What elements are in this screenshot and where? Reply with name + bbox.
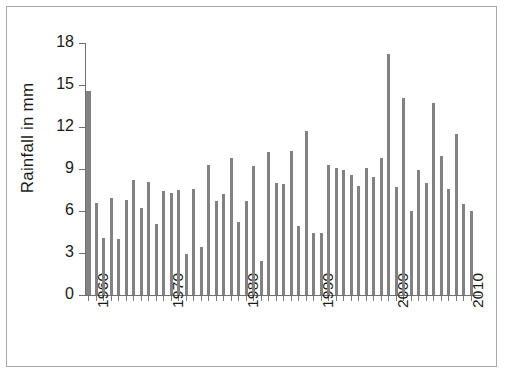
bar bbox=[342, 170, 345, 295]
bar bbox=[117, 239, 120, 295]
x-tick-mark bbox=[208, 296, 209, 301]
bar bbox=[237, 222, 240, 295]
bar bbox=[125, 200, 128, 295]
bar bbox=[447, 189, 450, 295]
x-tick-mark bbox=[298, 296, 299, 301]
bar bbox=[327, 165, 330, 295]
y-tick-label: 18 bbox=[40, 34, 74, 50]
x-tick-mark bbox=[418, 296, 419, 301]
x-tick-mark bbox=[156, 296, 157, 301]
bar bbox=[470, 211, 473, 295]
bar bbox=[417, 170, 420, 295]
x-tick-mark bbox=[291, 296, 292, 301]
x-tick-mark bbox=[88, 296, 89, 301]
bar bbox=[170, 193, 173, 295]
x-tick-mark bbox=[388, 296, 389, 301]
bar bbox=[192, 189, 195, 295]
y-tick-label: 9 bbox=[40, 160, 74, 176]
x-tick-mark bbox=[148, 296, 149, 301]
bar bbox=[252, 166, 255, 295]
x-tick-mark bbox=[306, 296, 307, 301]
bar bbox=[297, 226, 300, 295]
y-tick-mark bbox=[79, 295, 85, 296]
x-tick-mark bbox=[351, 296, 352, 301]
bar bbox=[260, 261, 263, 295]
bar bbox=[200, 247, 203, 295]
x-tick-mark bbox=[231, 296, 232, 301]
bar bbox=[230, 158, 233, 295]
bar bbox=[102, 238, 105, 295]
y-tick-mark bbox=[79, 85, 85, 86]
x-tick-mark bbox=[201, 296, 202, 301]
x-tick-mark bbox=[133, 296, 134, 301]
y-tick-mark bbox=[79, 211, 85, 212]
bar bbox=[282, 184, 285, 295]
y-tick-mark bbox=[79, 169, 85, 170]
x-tick-mark bbox=[193, 296, 194, 301]
y-axis-title: Rainfall in mm bbox=[18, 18, 38, 258]
bar bbox=[372, 177, 375, 295]
bar bbox=[222, 194, 225, 295]
y-tick-label: 12 bbox=[40, 118, 74, 134]
x-tick-mark bbox=[141, 296, 142, 301]
x-tick-mark bbox=[433, 296, 434, 301]
bar bbox=[245, 201, 248, 295]
x-tick-mark bbox=[283, 296, 284, 301]
bar bbox=[185, 254, 188, 295]
y-tick-label: 0 bbox=[40, 286, 74, 302]
x-tick-mark bbox=[366, 296, 367, 301]
y-tick-mark bbox=[79, 127, 85, 128]
x-tick-mark bbox=[441, 296, 442, 301]
x-tick-mark bbox=[343, 296, 344, 301]
bar bbox=[462, 204, 465, 295]
x-tick-mark bbox=[313, 296, 314, 301]
bar bbox=[455, 134, 458, 295]
bar bbox=[110, 198, 113, 295]
bar bbox=[425, 183, 428, 295]
x-tick-mark bbox=[426, 296, 427, 301]
bar bbox=[380, 158, 383, 295]
bar bbox=[147, 182, 150, 295]
x-tick-mark bbox=[238, 296, 239, 301]
y-tick-mark bbox=[79, 253, 85, 254]
bar bbox=[395, 187, 398, 295]
bar bbox=[335, 168, 338, 295]
bar bbox=[387, 54, 390, 295]
bar bbox=[162, 191, 165, 295]
bar bbox=[312, 233, 315, 295]
x-tick-mark bbox=[216, 296, 217, 301]
bar bbox=[275, 183, 278, 295]
bar bbox=[432, 103, 435, 295]
x-tick-mark bbox=[276, 296, 277, 301]
bar bbox=[155, 224, 158, 295]
bar bbox=[350, 175, 353, 295]
x-tick-mark bbox=[448, 296, 449, 301]
rainfall-bar-chart: Rainfall in mm 0369121518 19601970198019… bbox=[0, 0, 505, 375]
x-tick-mark bbox=[223, 296, 224, 301]
y-tick-label: 6 bbox=[40, 202, 74, 218]
x-tick-mark bbox=[163, 296, 164, 301]
x-tick-mark bbox=[463, 296, 464, 301]
x-tick-mark bbox=[456, 296, 457, 301]
bar bbox=[320, 233, 323, 295]
bar bbox=[440, 156, 443, 295]
x-tick-mark bbox=[381, 296, 382, 301]
x-tick-mark bbox=[268, 296, 269, 301]
bar bbox=[132, 180, 135, 295]
bar bbox=[207, 165, 210, 295]
bar bbox=[357, 186, 360, 295]
x-tick-mark bbox=[358, 296, 359, 301]
y-tick-label: 3 bbox=[40, 244, 74, 260]
y-tick-label: 15 bbox=[40, 76, 74, 92]
bar bbox=[410, 211, 413, 295]
bar bbox=[305, 131, 308, 295]
y-tick-mark bbox=[79, 43, 85, 44]
bar bbox=[86, 91, 91, 295]
bar bbox=[177, 190, 180, 295]
bar bbox=[402, 98, 405, 295]
bar bbox=[365, 168, 368, 295]
bar bbox=[140, 208, 143, 295]
x-tick-mark bbox=[126, 296, 127, 301]
x-tick-mark bbox=[118, 296, 119, 301]
bar bbox=[95, 203, 98, 295]
